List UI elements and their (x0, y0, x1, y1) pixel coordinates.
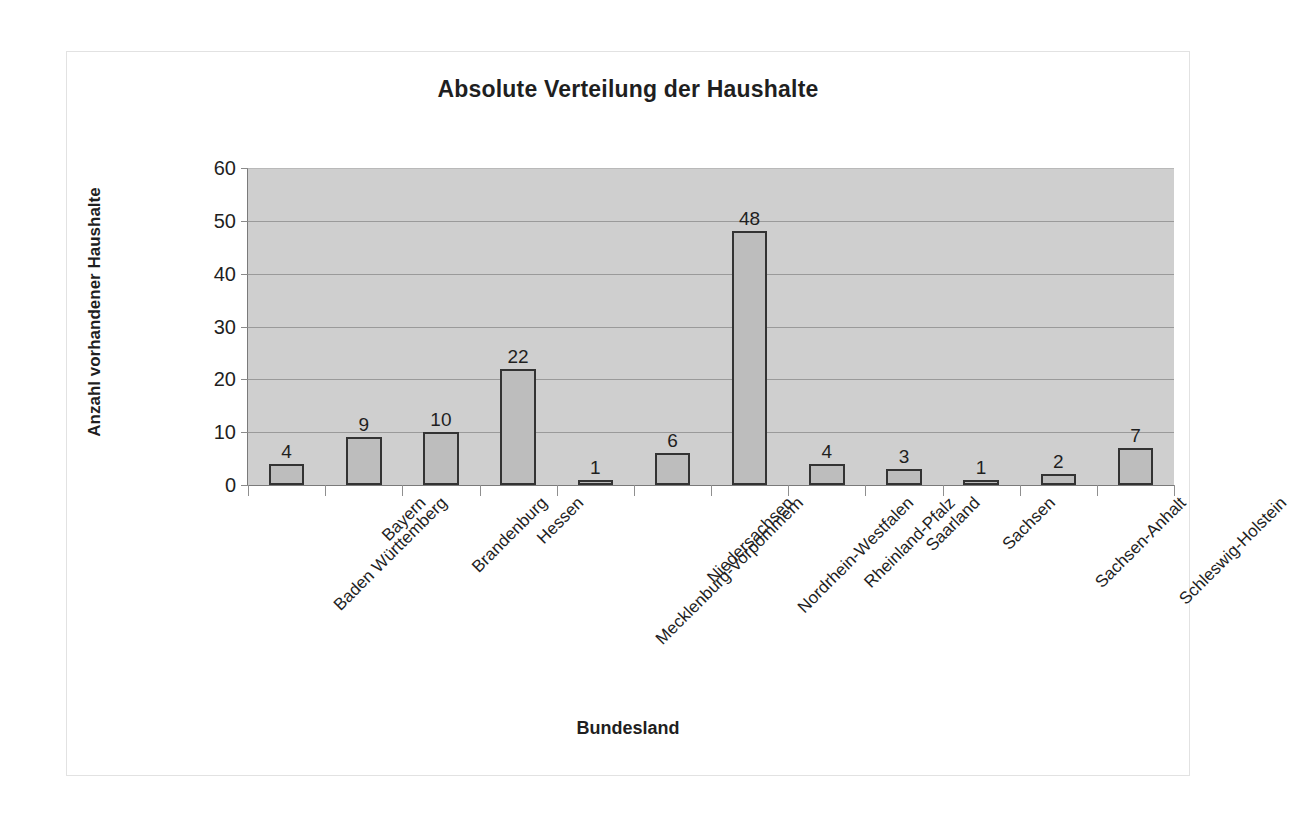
bar-value-label: 1 (976, 458, 987, 477)
x-axis-category-labels: Baden WürttembergBayernBrandenburgHessen… (247, 488, 1173, 668)
y-tick-mark (241, 221, 248, 222)
bar-slot: 9 (325, 168, 402, 485)
bar-value-label: 6 (667, 431, 678, 450)
x-category-label: Sachsen-Anhalt (1092, 494, 1189, 591)
x-axis-title: Bundesland (67, 718, 1189, 739)
bar[interactable]: 6 (655, 453, 690, 485)
bar-slot: 48 (711, 168, 788, 485)
bar-value-label: 3 (899, 447, 910, 466)
bar[interactable]: 10 (423, 432, 458, 485)
chart-figure-frame: Absolute Verteilung der Haushalte Anzahl… (66, 51, 1190, 776)
bar-value-label: 4 (821, 442, 832, 461)
bar-slot: 1 (557, 168, 634, 485)
bar-slot: 2 (1020, 168, 1097, 485)
bar[interactable]: 7 (1118, 448, 1153, 485)
y-tick-mark (241, 432, 248, 433)
plot-area: 0102030405060 491022164843127 (247, 168, 1174, 486)
x-category-label: Niedersachsen (705, 494, 797, 586)
bar-value-label: 48 (739, 209, 760, 228)
bar[interactable]: 4 (269, 464, 304, 485)
y-tick-label: 30 (176, 317, 236, 337)
bar[interactable]: 4 (809, 464, 844, 485)
y-tick-mark (241, 327, 248, 328)
bar-value-label: 22 (508, 347, 529, 366)
y-tick-mark (241, 485, 248, 486)
bar-value-label: 9 (358, 415, 369, 434)
y-tick-label: 20 (176, 369, 236, 389)
bar[interactable]: 22 (500, 369, 535, 485)
y-tick-label: 60 (176, 158, 236, 178)
x-category-label: Sachsen (999, 494, 1058, 553)
bar-slot: 3 (865, 168, 942, 485)
bar-slot: 4 (788, 168, 865, 485)
bar-value-label: 10 (430, 410, 451, 429)
bar-slot: 6 (634, 168, 711, 485)
bar[interactable]: 2 (1041, 474, 1076, 485)
x-category-label: Baden Württemberg (330, 494, 450, 614)
x-category-label: Schleswig-Holstein (1176, 494, 1290, 608)
chart-title: Absolute Verteilung der Haushalte (67, 76, 1189, 103)
y-tick-mark (241, 274, 248, 275)
y-tick-mark (241, 168, 248, 169)
bar[interactable]: 1 (578, 480, 613, 485)
bar-value-label: 2 (1053, 452, 1064, 471)
bars-layer: 491022164843127 (248, 168, 1174, 485)
bar[interactable]: 9 (346, 437, 381, 485)
y-axis-title: Anzahl vorhandener Haushalte (85, 147, 105, 477)
bar[interactable]: 3 (886, 469, 921, 485)
bar[interactable]: 48 (732, 231, 767, 485)
bar[interactable]: 1 (963, 480, 998, 485)
bar-slot: 7 (1097, 168, 1174, 485)
y-tick-label: 40 (176, 264, 236, 284)
y-tick-mark (241, 379, 248, 380)
y-tick-label: 10 (176, 422, 236, 442)
y-tick-label: 0 (176, 475, 236, 495)
y-tick-label: 50 (176, 211, 236, 231)
bar-slot: 22 (480, 168, 557, 485)
bar-slot: 4 (248, 168, 325, 485)
bar-value-label: 4 (281, 442, 292, 461)
bar-slot: 10 (402, 168, 479, 485)
bar-value-label: 1 (590, 458, 601, 477)
bar-value-label: 7 (1130, 426, 1141, 445)
bar-slot: 1 (943, 168, 1020, 485)
